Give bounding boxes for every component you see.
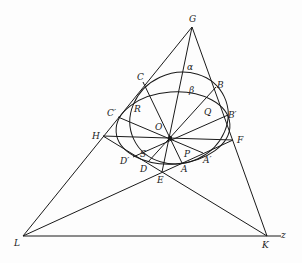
label-Q: Q: [204, 107, 212, 117]
label-P: P: [183, 149, 191, 159]
diagram-canvas: G L K z H F E O C B C′ B′ D′ D A A′ R Q …: [0, 0, 302, 263]
line-CA: [143, 82, 182, 163]
label-L: L: [13, 238, 20, 248]
label-B: B: [216, 80, 224, 90]
line-LF: [23, 140, 233, 236]
label-G: G: [189, 14, 196, 24]
geometry-diagram: G L K z H F E O C B C′ B′ D′ D A A′ R Q …: [0, 0, 302, 263]
label-B-prime: B′: [227, 110, 237, 120]
label-F: F: [236, 135, 244, 145]
label-E: E: [156, 175, 164, 185]
label-D: D: [139, 164, 147, 174]
label-C-prime: C′: [107, 108, 116, 118]
label-H: H: [91, 131, 100, 141]
label-S: S: [140, 149, 146, 159]
label-A-prime: A′: [202, 155, 212, 165]
label-C: C: [137, 72, 144, 82]
line-BpDp: [133, 115, 228, 157]
label-z: z: [280, 230, 286, 240]
outer-conic: [115, 56, 244, 180]
label-R: R: [133, 104, 141, 114]
label-O: O: [155, 122, 163, 132]
label-K: K: [261, 240, 270, 250]
label-D-prime: D′: [119, 156, 129, 166]
center-point-O: [168, 136, 172, 140]
inner-conic: [114, 88, 233, 168]
label-alpha: α: [187, 62, 193, 72]
label-beta: β: [188, 85, 194, 95]
label-A: A: [180, 164, 188, 174]
